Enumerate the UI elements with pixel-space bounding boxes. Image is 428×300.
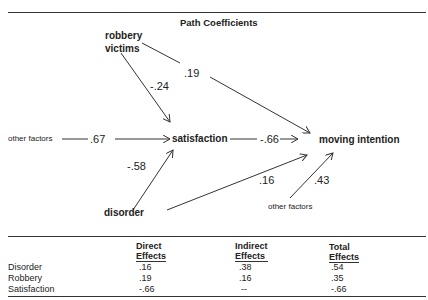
node-other-factors-left: other factors: [8, 135, 52, 143]
table-bottom-rule: [8, 296, 426, 297]
cell-total: .54: [331, 263, 344, 272]
table-row: Disorder .16 .38 .54: [8, 263, 426, 273]
table-row: Robbery .19 .16 .35: [8, 274, 426, 284]
col-header-indirect: Indirect Effects: [235, 241, 268, 262]
cell-indirect: .16: [239, 274, 252, 283]
cell-total: -.66: [331, 285, 347, 294]
coef-robbery-satisfaction: -.24: [150, 81, 169, 92]
node-satisfaction: satisfaction: [172, 134, 228, 144]
row-label: Robbery: [8, 274, 42, 283]
row-label: Disorder: [8, 263, 42, 272]
coef-disorder-satisfaction: -.58: [127, 161, 146, 172]
coef-robbery-moving: .19: [184, 68, 199, 79]
row-label: Satisfaction: [8, 285, 55, 294]
node-robbery-victims: robbery victims: [105, 29, 142, 55]
cell-direct: -.66: [139, 285, 155, 294]
col-header-direct: Direct Effects: [136, 241, 166, 262]
table-row: Satisfaction -.66 -- -.66: [8, 285, 426, 295]
node-robbery-line2: victims: [105, 42, 142, 55]
cell-total: .35: [331, 274, 344, 283]
coef-other-moving: .43: [314, 175, 329, 186]
col-header-total: Total Effects: [329, 242, 359, 263]
node-other-factors-bottom: other factors: [268, 203, 312, 211]
table-top-rule: [8, 236, 426, 237]
node-disorder: disorder: [104, 208, 144, 218]
cell-direct: .16: [139, 263, 152, 272]
node-robbery-line1: robbery: [105, 29, 142, 42]
cell-direct: .19: [139, 274, 152, 283]
cell-indirect: .38: [239, 263, 252, 272]
coef-other-satisfaction: .67: [90, 134, 105, 145]
path-arrows: [0, 0, 428, 230]
node-moving-intention: moving intention: [319, 135, 400, 145]
coef-satisfaction-moving: -.66: [260, 134, 279, 145]
coef-disorder-moving: .16: [259, 175, 274, 186]
cell-indirect: --: [241, 285, 247, 294]
